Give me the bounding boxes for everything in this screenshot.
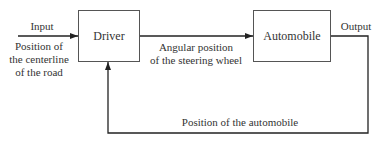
- input-description-line-2: the centerline: [0, 53, 78, 66]
- automobile-label: Automobile: [263, 29, 320, 44]
- driver-label: Driver: [93, 29, 124, 44]
- automobile-block: Automobile: [253, 10, 331, 62]
- steering-description: Angular position of the steering wheel: [140, 41, 252, 67]
- output-label: Output: [334, 20, 378, 33]
- feedback-label: Position of the automobile: [160, 116, 320, 129]
- input-description-line-3: of the road: [0, 66, 78, 79]
- input-label: Input: [22, 20, 62, 33]
- input-description: Position of the centerline of the road: [0, 40, 78, 79]
- driver-block: Driver: [78, 10, 140, 62]
- steering-description-line-2: of the steering wheel: [140, 54, 252, 67]
- steering-description-line-1: Angular position: [140, 41, 252, 54]
- input-description-line-1: Position of: [0, 40, 78, 53]
